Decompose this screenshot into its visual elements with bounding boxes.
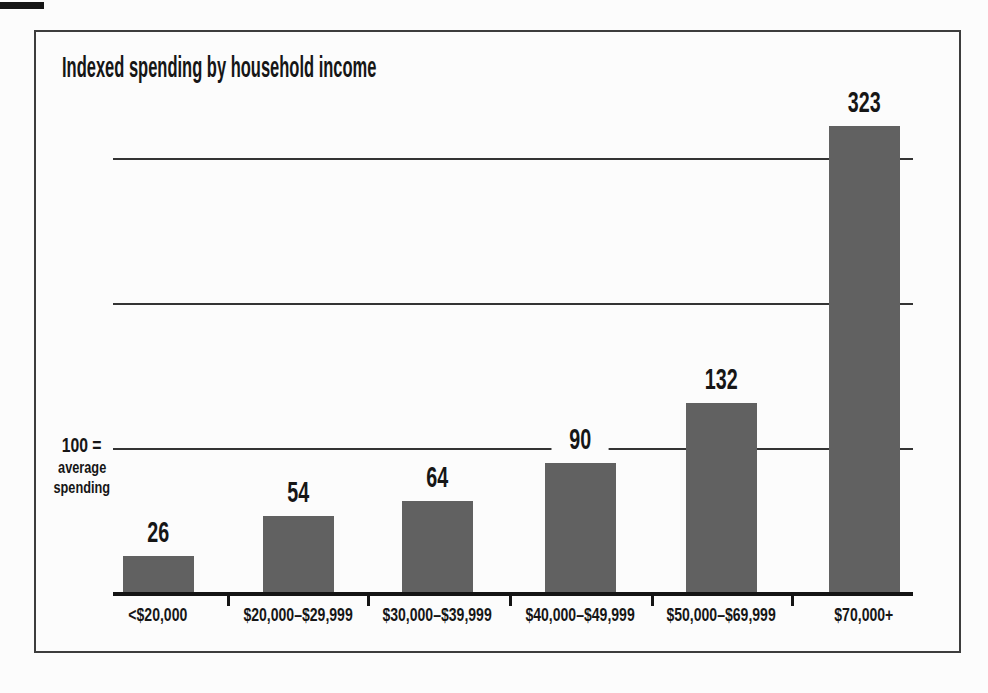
bar-$50,000–$69,999 bbox=[686, 403, 757, 594]
bar-value-label: 64 bbox=[357, 463, 517, 492]
scanned-chart-page: Indexed spending by household income 100… bbox=[0, 0, 988, 693]
chart-title: Indexed spending by household income bbox=[62, 52, 634, 82]
annotation-line-3: spending bbox=[37, 478, 127, 498]
bar-value-label: 54 bbox=[218, 478, 378, 507]
annotation-line-1: 100 = bbox=[37, 432, 127, 458]
gridline-200 bbox=[113, 303, 913, 305]
gridline-300 bbox=[113, 158, 913, 160]
chart-title-text: Indexed spending by household income bbox=[62, 52, 376, 82]
bar-value-label: 90 bbox=[500, 425, 660, 454]
bar-$30,000–$39,999 bbox=[402, 501, 473, 594]
bar-$40,000–$49,999 bbox=[545, 463, 616, 594]
page-edge-scan-artifact bbox=[0, 2, 44, 9]
bar-value-label: 323 bbox=[784, 88, 944, 117]
bar-<$20,000 bbox=[123, 556, 194, 594]
x-axis-label: $70,000+ bbox=[764, 605, 964, 625]
y-axis-annotation: 100 = average spending bbox=[37, 432, 127, 498]
bar-$20,000–$29,999 bbox=[263, 516, 334, 594]
bar-value-label: 132 bbox=[641, 365, 801, 394]
annotation-line-2: average bbox=[37, 458, 127, 478]
bar-value-label: 26 bbox=[78, 518, 238, 547]
bar-$70,000+ bbox=[829, 126, 900, 594]
